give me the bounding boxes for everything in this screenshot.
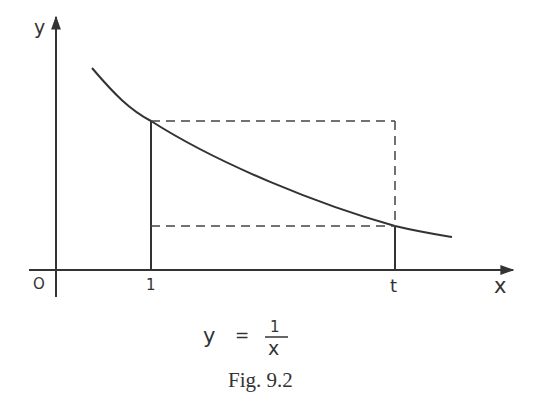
curve-one-over-x [92,68,452,237]
equation-denominator: x [268,337,279,359]
x-axis-label: x [494,274,506,298]
figure-canvas: y O 1 t x y = 1 x Fig. 9.2 [0,0,541,410]
equation-lhs: y [203,324,215,348]
y-axis-label: y [34,16,45,38]
figure-caption: Fig. 9.2 [228,368,293,392]
tick-label-t: t [390,275,397,296]
equation-numerator: 1 [270,318,280,336]
equation-equals: = [235,325,249,345]
origin-label: O [33,275,45,293]
tick-label-one: 1 [146,276,156,294]
